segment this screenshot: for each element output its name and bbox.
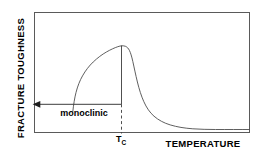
monoclinic-region-label: monoclinic: [45, 108, 123, 118]
chart-figure: FRACTURE TOUGHNESS TEMPERATURE monoclini…: [0, 0, 261, 156]
tc-axis-label: TC: [104, 134, 138, 144]
x-axis-title: TEMPERATURE: [155, 138, 251, 149]
tc-subscript-letter: C: [121, 139, 126, 146]
y-axis-title: FRACTURE TOUGHNESS: [10, 0, 30, 156]
